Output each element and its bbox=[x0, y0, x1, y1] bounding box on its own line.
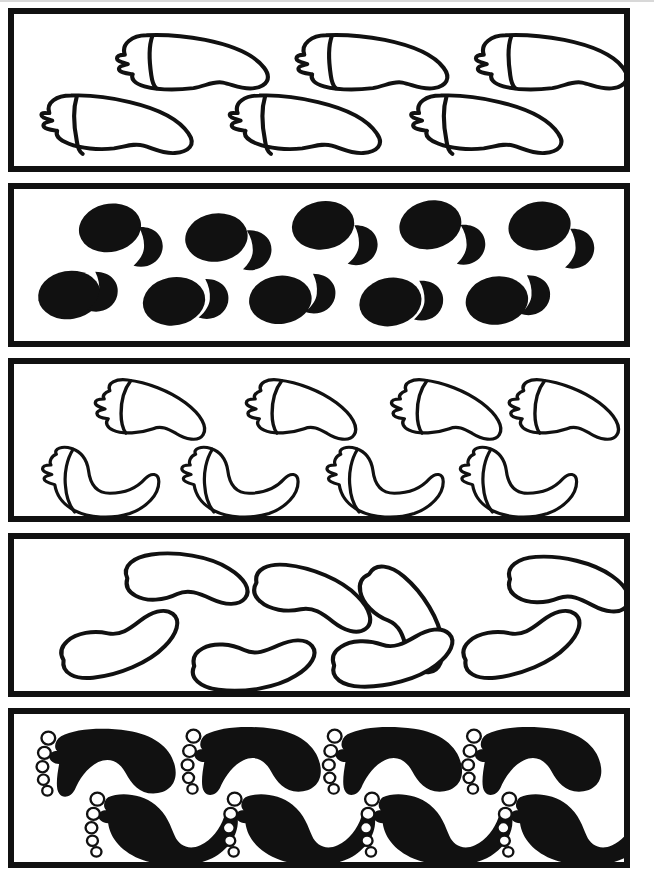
panel-2-canvas bbox=[14, 189, 624, 341]
panel-5-canvas bbox=[14, 714, 624, 862]
panel-2-solid-oval-with-crescent bbox=[8, 183, 630, 347]
bean-shape-icon bbox=[41, 35, 624, 154]
crescent-shape-icon bbox=[455, 224, 488, 267]
panel-1-canvas bbox=[14, 14, 624, 166]
scan-edge-streak bbox=[0, 0, 654, 2]
crescent-shape-icon bbox=[563, 228, 597, 272]
panel-1-outline-lobed-bean-large bbox=[8, 8, 630, 172]
bean-shape-icon bbox=[58, 543, 624, 691]
oval-shape-icon bbox=[34, 193, 597, 332]
panel-5-solid-footprint-five-toes bbox=[8, 708, 630, 868]
panel-3-canvas bbox=[14, 364, 624, 516]
bean-shape-icon bbox=[43, 380, 619, 516]
panel-4-canvas bbox=[14, 539, 624, 691]
panel-4-outline-plain-kidney bbox=[8, 533, 630, 697]
panel-3-outline-lobed-bean-small bbox=[8, 358, 630, 522]
figure-sheet bbox=[0, 0, 654, 871]
